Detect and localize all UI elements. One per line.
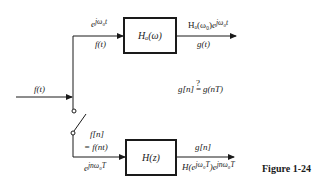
block-diagram: f(t) ejω₀t f(t) Hₐ(ω) Hₐ(ω₀)ejω₀t g(t) g… bbox=[0, 0, 328, 191]
comparison-left: g[n] bbox=[178, 84, 195, 94]
comparison-right: g(nT) bbox=[203, 84, 223, 94]
analog-output-expr: Hₐ(ω₀)ejω₀t bbox=[188, 18, 229, 30]
comparison-equals: = bbox=[196, 84, 201, 94]
sampled-label-line1: f[n] bbox=[90, 129, 105, 139]
switch-lower-contact bbox=[71, 131, 75, 135]
analog-output-signal: g(t) bbox=[197, 39, 210, 49]
analog-input-signal: f(t) bbox=[95, 39, 106, 49]
sampled-label-line2: = f(nt) bbox=[84, 142, 108, 152]
switch-upper-contact bbox=[72, 109, 76, 113]
figure-caption: Figure 1-24 bbox=[262, 163, 311, 174]
analog-block-label: Hₐ(ω) bbox=[137, 30, 163, 42]
digital-block-label: H(z) bbox=[141, 152, 160, 164]
analog-input-exp: ejω₀t bbox=[91, 17, 108, 29]
input-label: f(t) bbox=[34, 84, 45, 94]
digital-input-exp: ejnω₀T bbox=[84, 161, 107, 173]
digital-output-signal: g[n] bbox=[195, 142, 212, 152]
digital-output-expr: H(ejω₀T)ejnω₀T bbox=[181, 160, 235, 172]
switch-arm bbox=[74, 114, 86, 131]
